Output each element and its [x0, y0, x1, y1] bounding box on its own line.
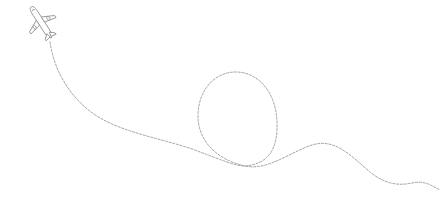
- illustration-canvas: airplane with dashed flight path loop: [0, 0, 440, 203]
- flight-path: [50, 42, 440, 190]
- airplane-icon: [19, 0, 64, 46]
